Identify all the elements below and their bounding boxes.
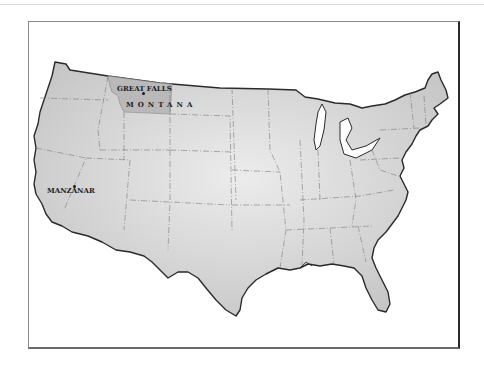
us-outline: [34, 62, 448, 316]
manzanar-label: MANZANAR: [47, 186, 95, 195]
montana-label: MONTANA: [126, 100, 196, 109]
artist-signature: ...: [375, 313, 378, 317]
great-falls-label: GREAT FALLS: [117, 84, 172, 93]
